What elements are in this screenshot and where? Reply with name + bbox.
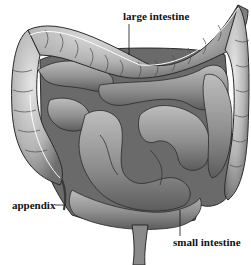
intestine-illustration <box>0 0 251 265</box>
appendix-label: appendix <box>12 199 55 211</box>
intestine-diagram: large intestine appendix small intestine <box>0 0 251 265</box>
large-intestine-label: large intestine <box>123 10 189 22</box>
rectum-shape <box>132 225 148 265</box>
small-intestine-label: small intestine <box>173 236 241 248</box>
